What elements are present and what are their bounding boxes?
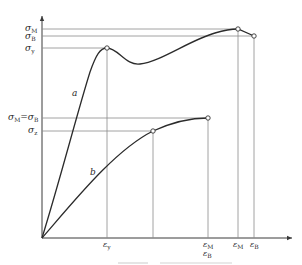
stress-strain-diagram: a b σM σB σy σM=σB σz εy εM εB εM εB — [0, 0, 302, 265]
point-yield-a — [105, 46, 109, 50]
label-eps-B-b: εB — [203, 249, 212, 259]
point-max-break-b — [206, 116, 210, 120]
label-sigma-y: σy — [25, 43, 35, 55]
point-break-a — [252, 34, 256, 38]
label-eps-y: εy — [103, 240, 111, 251]
curve-b — [42, 118, 208, 238]
label-eps-M-a: εM — [233, 240, 243, 250]
label-sigma-z: σz — [28, 125, 37, 136]
curve-a-label: a — [72, 88, 77, 98]
point-z-b — [151, 129, 155, 133]
label-eps-B-a: εB — [250, 240, 259, 250]
label-sigma-M-eq-B: σM=σB — [8, 112, 39, 123]
curve-b-label: b — [90, 167, 96, 177]
point-max-a — [236, 27, 240, 31]
